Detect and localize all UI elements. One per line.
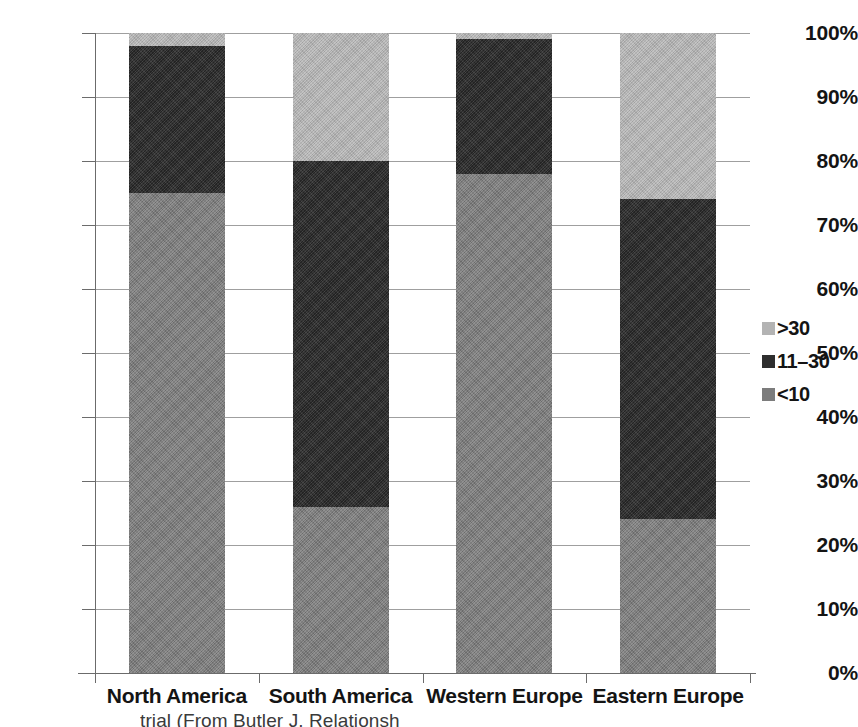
legend-swatch-high-icon	[762, 322, 775, 335]
stacked-bar-chart: 0%10%20%30%40%50%60%70%80%90%100% North …	[0, 0, 858, 727]
legend-label: >30	[777, 317, 810, 340]
y-axis-tick-mark	[82, 161, 95, 162]
y-axis-tick-label: 60%	[780, 277, 858, 301]
y-axis-tick-label: 90%	[780, 85, 858, 109]
bar-segment	[456, 174, 552, 673]
y-axis-tick-mark	[82, 545, 95, 546]
y-axis-tick-mark	[82, 97, 95, 98]
legend-label: 11–30	[777, 350, 830, 373]
y-axis-tick-mark	[82, 353, 95, 354]
y-axis-tick-mark	[82, 673, 95, 674]
y-axis-line	[95, 33, 96, 674]
x-axis-tick-label: Eastern Europe	[586, 684, 750, 708]
bar-segment	[129, 193, 225, 673]
y-axis-tick-mark	[82, 481, 95, 482]
y-axis-tick-mark	[82, 609, 95, 610]
x-axis-tick-label: North America	[95, 684, 259, 708]
x-axis-line	[78, 673, 756, 674]
bar-segment	[129, 33, 225, 46]
x-axis-tick-mark	[95, 673, 96, 683]
bar-segment	[293, 507, 389, 673]
bar-segment	[456, 33, 552, 39]
bar-segment	[293, 161, 389, 507]
legend-label: <10	[777, 383, 810, 406]
legend-swatch-mid-icon	[762, 355, 775, 368]
y-axis-tick-label: 0%	[780, 661, 858, 685]
y-axis-tick-label: 10%	[780, 597, 858, 621]
bar-segment	[620, 199, 716, 519]
bar-group	[293, 33, 389, 673]
x-axis-tick-label: South America	[259, 684, 423, 708]
y-axis-tick-label: 30%	[780, 469, 858, 493]
y-axis-tick-mark	[82, 417, 95, 418]
figure-caption: trial (From Butler J. Relationsh	[140, 710, 858, 727]
y-axis-tick-mark	[82, 289, 95, 290]
y-axis-tick-mark	[82, 225, 95, 226]
x-axis-tick-mark	[586, 673, 587, 683]
legend-item: 11–30	[762, 345, 854, 378]
y-axis-tick-label: 70%	[780, 213, 858, 237]
y-axis-tick-mark	[82, 33, 95, 34]
y-axis-tick-label: 80%	[780, 149, 858, 173]
bar-group	[620, 33, 716, 673]
bar-segment	[620, 519, 716, 673]
legend-item: <10	[762, 378, 854, 411]
bar-segment	[293, 33, 389, 161]
x-axis-tick-mark	[423, 673, 424, 683]
bar-segment	[620, 33, 716, 199]
x-axis-tick-label: Western Europe	[423, 684, 587, 708]
bar-group	[129, 33, 225, 673]
plot-area	[95, 33, 750, 673]
y-axis-tick-label: 20%	[780, 533, 858, 557]
x-axis-tick-mark	[750, 673, 751, 683]
legend: >30 11–30 <10	[762, 312, 854, 411]
y-axis-tick-label: 100%	[780, 21, 858, 45]
bar-segment	[129, 46, 225, 193]
bar-segment	[456, 39, 552, 173]
x-axis-tick-mark	[259, 673, 260, 683]
bar-group	[456, 33, 552, 673]
legend-item: >30	[762, 312, 854, 345]
legend-swatch-low-icon	[762, 388, 775, 401]
